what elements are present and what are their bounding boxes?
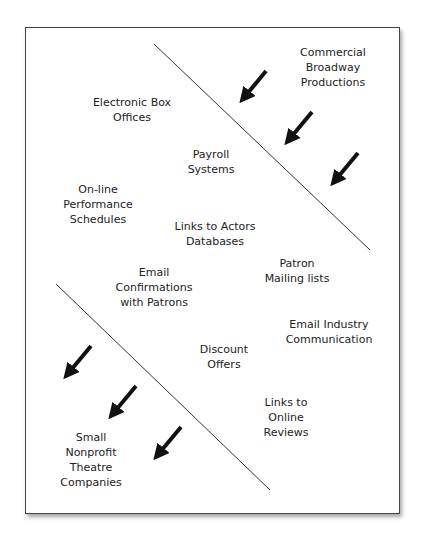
text-line: Email	[116, 265, 193, 280]
text-line: Broadway	[300, 60, 366, 75]
text-line: with Patrons	[116, 295, 193, 310]
text-line: Offices	[93, 110, 171, 125]
arrow-icon	[338, 153, 358, 177]
text-line: Patron	[265, 256, 330, 271]
text-line: Electronic Box	[93, 95, 171, 110]
label-email-confirmations: Email Confirmations with Patrons	[116, 265, 193, 310]
text-line: Communication	[286, 332, 373, 347]
text-line: Theatre	[60, 460, 121, 475]
label-online-performance-schedules: On-line Performance Schedules	[63, 182, 133, 227]
label-links-online-reviews: Links to Online Reviews	[264, 395, 309, 440]
arrow-icon	[161, 427, 181, 451]
text-line: Systems	[188, 162, 235, 177]
label-payroll-systems: Payroll Systems	[188, 147, 235, 177]
text-line: Commercial	[300, 45, 366, 60]
label-commercial-broadway: Commercial Broadway Productions	[300, 45, 366, 90]
text-line: Confirmations	[116, 280, 193, 295]
arrow-icon	[116, 386, 136, 410]
label-email-industry-communication: Email Industry Communication	[286, 317, 373, 347]
text-line: Discount	[200, 342, 248, 357]
label-small-nonprofit-theatre: Small Nonprofit Theatre Companies	[60, 430, 121, 490]
label-discount-offers: Discount Offers	[200, 342, 248, 372]
text-line: Small	[60, 430, 121, 445]
arrow-icon	[292, 112, 312, 136]
text-line: Online	[264, 410, 309, 425]
label-patron-mailing-lists: Patron Mailing lists	[265, 256, 330, 286]
text-line: Offers	[200, 357, 248, 372]
text-line: Nonprofit	[60, 445, 121, 460]
text-line: Mailing lists	[265, 271, 330, 286]
text-line: Links to	[264, 395, 309, 410]
text-line: Companies	[60, 475, 121, 490]
arrow-icon	[71, 346, 91, 370]
text-line: Productions	[300, 75, 366, 90]
label-electronic-box-offices: Electronic Box Offices	[93, 95, 171, 125]
text-line: Links to Actors	[175, 219, 256, 234]
text-line: Schedules	[63, 212, 133, 227]
arrow-icon	[247, 71, 266, 94]
text-line: On-line	[63, 182, 133, 197]
label-links-actors-databases: Links to Actors Databases	[175, 219, 256, 249]
text-line: Email Industry	[286, 317, 373, 332]
text-line: Reviews	[264, 425, 309, 440]
text-line: Payroll	[188, 147, 235, 162]
text-line: Databases	[175, 234, 256, 249]
text-line: Performance	[63, 197, 133, 212]
